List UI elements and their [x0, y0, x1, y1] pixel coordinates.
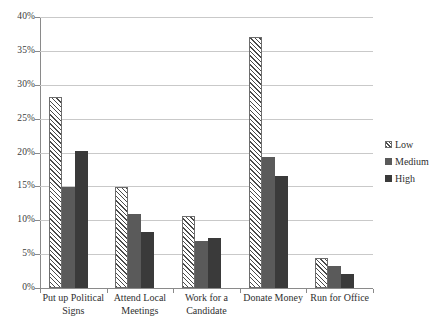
bar-low[interactable] [315, 258, 328, 288]
bar-high[interactable] [75, 151, 88, 288]
bar-high[interactable] [208, 238, 221, 288]
bar-medium[interactable] [328, 266, 341, 288]
bar-high[interactable] [141, 232, 154, 288]
y-axis-tick-label: 25% [0, 114, 35, 124]
bar-medium[interactable] [195, 241, 208, 288]
bar-chart: 0%5%10%15%20%25%30%35%40% Put up Politic… [0, 0, 448, 334]
bar-medium[interactable] [128, 214, 141, 288]
bar-low[interactable] [49, 97, 62, 288]
legend-item-high[interactable]: High [385, 170, 447, 187]
bar-low[interactable] [249, 37, 262, 288]
y-axis-tick-label: 15% [0, 181, 35, 191]
legend-label-low: Low [395, 140, 413, 150]
legend-swatch-high-icon [385, 175, 392, 182]
bar-medium[interactable] [262, 157, 275, 288]
legend-swatch-low-icon [385, 141, 392, 148]
plot-area [40, 17, 373, 288]
y-axis-tick-label: 35% [0, 46, 35, 56]
x-axis-category-label: Run for Office [296, 291, 383, 304]
y-axis-tick-label: 20% [0, 148, 35, 158]
axis-baseline [40, 288, 373, 289]
bar-low[interactable] [182, 216, 195, 288]
x-axis-category-label-line: Candidate [163, 304, 250, 317]
bar-group [49, 17, 88, 288]
bar-high[interactable] [275, 176, 288, 288]
bar-group [249, 17, 288, 288]
y-axis-tick-label: 40% [0, 12, 35, 22]
legend-label-high: High [395, 174, 415, 184]
bar-high[interactable] [341, 274, 354, 288]
legend-label-medium: Medium [395, 157, 429, 167]
y-axis-tick-label: 5% [0, 249, 35, 259]
legend-item-low[interactable]: Low [385, 136, 447, 153]
bar-group [182, 17, 221, 288]
bar-group [115, 17, 154, 288]
chart-legend: Low Medium High [385, 136, 447, 187]
y-axis-tick-label: 30% [0, 80, 35, 90]
bar-group [315, 17, 354, 288]
y-axis-tick-label: 10% [0, 215, 35, 225]
x-axis-category-label-line: Run for Office [296, 291, 383, 304]
legend-item-medium[interactable]: Medium [385, 153, 447, 170]
bar-low[interactable] [115, 187, 128, 288]
bar-medium[interactable] [62, 187, 75, 288]
legend-swatch-medium-icon [385, 158, 392, 165]
